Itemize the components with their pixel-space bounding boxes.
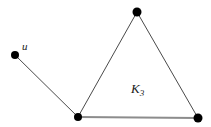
graph-drawing (0, 0, 211, 127)
edge-bottom-left-bottom-right (78, 117, 198, 118)
edge-u-bottom-left (15, 55, 78, 117)
triangle-k3-letter: K (131, 81, 140, 96)
edge-bottom-left-top (78, 12, 137, 117)
vertex-bottom-right (194, 114, 203, 123)
vertex-bottom-left (74, 113, 82, 121)
graph-figure: u K3 (0, 0, 211, 127)
vertex-top (133, 8, 142, 17)
triangle-k3-label: K3 (131, 82, 144, 98)
edge-top-bottom-right (137, 12, 198, 118)
vertex-u (11, 51, 19, 59)
triangle-k3-subscript: 3 (140, 88, 145, 98)
vertex-u-label: u (22, 41, 28, 52)
